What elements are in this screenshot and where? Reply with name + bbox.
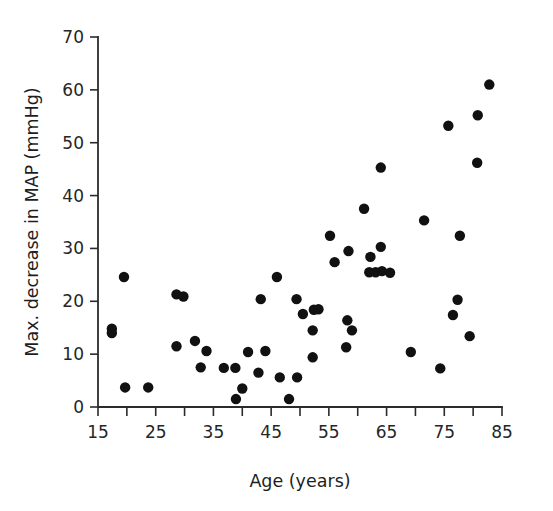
data-point bbox=[291, 294, 301, 304]
data-point bbox=[119, 272, 129, 282]
data-point bbox=[406, 347, 416, 357]
data-point bbox=[376, 162, 386, 172]
data-point bbox=[201, 346, 211, 356]
y-axis: 010203040506070 bbox=[62, 27, 98, 417]
data-point bbox=[455, 231, 465, 241]
data-point bbox=[343, 246, 353, 256]
x-axis-tick-label: 65 bbox=[376, 422, 398, 442]
data-point bbox=[419, 215, 429, 225]
data-point bbox=[253, 367, 263, 377]
data-point bbox=[298, 309, 308, 319]
data-point bbox=[435, 363, 445, 373]
data-point bbox=[107, 328, 117, 338]
data-point bbox=[473, 110, 483, 120]
x-axis-title: Age (years) bbox=[249, 471, 350, 491]
x-axis-tick-label: 35 bbox=[203, 422, 225, 442]
data-point bbox=[464, 331, 474, 341]
x-axis-tick-label: 45 bbox=[260, 422, 282, 442]
data-point bbox=[385, 268, 395, 278]
scatter-plot-figure: 010203040506070 1525354555657585 Age (ye… bbox=[0, 0, 553, 511]
data-point bbox=[341, 342, 351, 352]
y-axis-tick-label: 70 bbox=[62, 27, 84, 47]
data-point bbox=[284, 394, 294, 404]
data-point bbox=[256, 294, 266, 304]
x-axis-tick-label: 25 bbox=[145, 422, 167, 442]
data-point bbox=[237, 383, 247, 393]
y-axis-tick-label: 40 bbox=[62, 186, 84, 206]
x-axis: 1525354555657585 bbox=[87, 407, 513, 442]
data-point bbox=[260, 346, 270, 356]
x-axis-tick-label: 75 bbox=[433, 422, 455, 442]
data-point bbox=[243, 347, 253, 357]
data-point bbox=[308, 325, 318, 335]
data-point bbox=[347, 325, 357, 335]
plot-svg: 010203040506070 1525354555657585 Age (ye… bbox=[0, 0, 553, 511]
data-point bbox=[452, 295, 462, 305]
data-point bbox=[120, 382, 130, 392]
data-point bbox=[325, 231, 335, 241]
y-axis-tick-label: 20 bbox=[62, 291, 84, 311]
data-point bbox=[448, 310, 458, 320]
y-axis-title: Max. decrease in MAP (mmHg) bbox=[22, 87, 42, 356]
data-point bbox=[230, 363, 240, 373]
data-point bbox=[190, 336, 200, 346]
data-point bbox=[359, 204, 369, 214]
data-point bbox=[292, 372, 302, 382]
y-axis-tick-label: 60 bbox=[62, 80, 84, 100]
data-points-layer bbox=[107, 79, 495, 404]
data-point bbox=[219, 363, 229, 373]
data-point bbox=[342, 315, 352, 325]
data-point bbox=[472, 158, 482, 168]
data-point bbox=[376, 242, 386, 252]
data-point bbox=[171, 341, 181, 351]
y-axis-tick-label: 30 bbox=[62, 238, 84, 258]
x-axis-tick-label: 15 bbox=[87, 422, 109, 442]
x-axis-tick-label: 85 bbox=[491, 422, 513, 442]
data-point bbox=[329, 257, 339, 267]
data-point bbox=[275, 372, 285, 382]
y-axis-tick-label: 50 bbox=[62, 133, 84, 153]
data-point bbox=[313, 304, 323, 314]
data-point bbox=[365, 252, 375, 262]
data-point bbox=[231, 394, 241, 404]
x-axis-tick-label: 55 bbox=[318, 422, 340, 442]
data-point bbox=[196, 362, 206, 372]
data-point bbox=[178, 291, 188, 301]
y-axis-tick-label: 10 bbox=[62, 344, 84, 364]
data-point bbox=[308, 352, 318, 362]
data-point bbox=[143, 382, 153, 392]
data-point bbox=[443, 121, 453, 131]
data-point bbox=[272, 272, 282, 282]
data-point bbox=[484, 79, 494, 89]
y-axis-tick-label: 0 bbox=[73, 397, 84, 417]
